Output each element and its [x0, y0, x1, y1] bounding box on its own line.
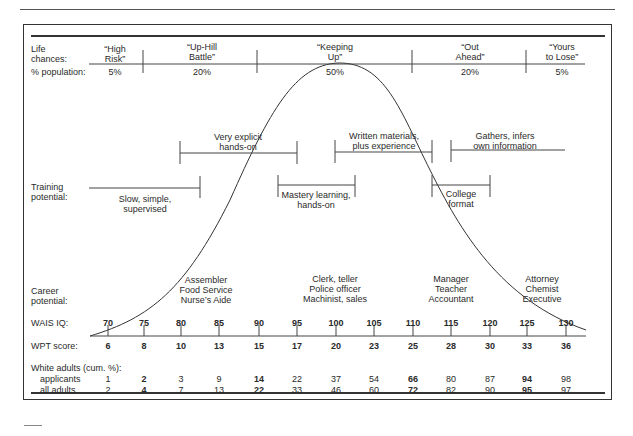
- applicants-value: 98: [561, 374, 571, 384]
- training-gathers-infers: Gathers, infers: [475, 131, 534, 141]
- training-college: College: [446, 189, 477, 199]
- wais-iq-value: 125: [519, 318, 534, 328]
- career-group-2-b: Police officer: [309, 284, 360, 294]
- training-slow-simple-2: supervised: [123, 204, 167, 214]
- applicants-value: 22: [292, 374, 302, 384]
- life-group-yours-to-lose: “Yours: [549, 42, 575, 52]
- wais-iq-value: 130: [558, 318, 573, 328]
- wpt-score-value: 25: [408, 341, 418, 351]
- all-adults-value: 60: [369, 385, 379, 395]
- wpt-score-value: 17: [292, 341, 302, 351]
- wais-iq-value: 110: [406, 318, 421, 328]
- all-adults-label: all adults: [40, 385, 76, 395]
- applicants-value: 37: [331, 374, 341, 384]
- career-group-4-b: Chemist: [525, 284, 558, 294]
- wpt-score-value: 23: [369, 341, 379, 351]
- life-group-out-ahead: “Out: [461, 42, 479, 52]
- career-group-4: Attorney: [525, 274, 559, 284]
- all-adults-value: 82: [446, 385, 456, 395]
- wpt-score-value: 28: [446, 341, 456, 351]
- training-gathers-infers-2: own information: [473, 141, 537, 151]
- life-group-yours-to-lose-2: to Lose”: [546, 52, 579, 62]
- wais-iq-value: 95: [292, 318, 302, 328]
- wais-iq-value: 85: [214, 318, 224, 328]
- training-mastery: Mastery learning,: [281, 190, 350, 200]
- life-group-keeping-up-2: Up”: [328, 52, 343, 62]
- life-group-uphill-2: Battle”: [189, 52, 215, 62]
- all-adults-value: 2: [105, 385, 110, 395]
- wpt-score-value: 20: [331, 341, 341, 351]
- career-group-1-c: Nurse’s Aide: [181, 295, 231, 305]
- career-group-3-c: Accountant: [428, 294, 473, 304]
- training-very-explicit-2: hands-on: [219, 142, 257, 152]
- applicants-value: 2: [141, 374, 146, 384]
- all-adults-value: 4: [141, 385, 146, 395]
- life-group-high-risk-2: Risk”: [105, 54, 126, 64]
- life-group-keeping-up: “Keeping: [317, 42, 353, 52]
- wpt-score-value: 6: [105, 341, 110, 351]
- wais-label: WAIS IQ:: [31, 318, 68, 328]
- career-group-2-c: Machinist, sales: [303, 294, 367, 304]
- applicants-value: 80: [446, 374, 456, 384]
- training-slow-simple: Slow, simple,: [119, 194, 172, 204]
- figure-caption-fragment: [24, 425, 42, 429]
- applicants-value: 9: [216, 374, 221, 384]
- all-adults-value: 22: [254, 385, 264, 395]
- wpt-score-value: 8: [141, 341, 146, 351]
- life-chances-label: Life: [31, 44, 46, 54]
- career-label-2: potential:: [31, 296, 68, 306]
- wpt-score-value: 13: [214, 341, 224, 351]
- all-adults-value: 7: [178, 385, 183, 395]
- life-group-yours-to-lose-pct: 5%: [555, 67, 568, 77]
- wais-iq-value: 80: [176, 318, 186, 328]
- wpt-score-value: 36: [561, 341, 571, 351]
- all-adults-value: 72: [408, 385, 418, 395]
- life-group-high-risk: “High: [104, 44, 126, 54]
- wpt-score-value: 10: [176, 341, 186, 351]
- applicants-value: 87: [485, 374, 495, 384]
- career-group-1-b: Food Service: [179, 285, 232, 295]
- applicants-value: 66: [408, 374, 418, 384]
- wpt-label: WPT score:: [31, 341, 78, 351]
- life-chances-label-2: chances:: [31, 54, 67, 64]
- life-group-uphill-pct: 20%: [193, 67, 211, 77]
- wpt-score-value: 15: [254, 341, 264, 351]
- career-group-4-c: Executive: [522, 294, 561, 304]
- applicants-value: 14: [254, 374, 264, 384]
- all-adults-value: 13: [214, 385, 224, 395]
- applicants-value: 1: [105, 374, 110, 384]
- life-group-out-ahead-2: Ahead”: [455, 52, 484, 62]
- wpt-score-value: 30: [485, 341, 495, 351]
- training-written-materials-2: plus experience: [352, 141, 415, 151]
- life-group-out-ahead-pct: 20%: [461, 67, 479, 77]
- applicants-value: 3: [178, 374, 183, 384]
- population-label: % population:: [31, 67, 86, 77]
- wais-iq-value: 70: [103, 318, 113, 328]
- all-adults-value: 33: [292, 385, 302, 395]
- life-group-high-risk-pct: 5%: [108, 67, 121, 77]
- career-group-3: Manager: [433, 274, 469, 284]
- wais-iq-value: 105: [366, 318, 381, 328]
- training-mastery-2: hands-on: [297, 200, 335, 210]
- wais-iq-value: 75: [139, 318, 149, 328]
- wpt-score-value: 33: [522, 341, 532, 351]
- life-group-keeping-up-pct: 50%: [326, 67, 344, 77]
- life-group-uphill: “Up-Hill: [187, 42, 217, 52]
- all-adults-value: 95: [522, 385, 532, 395]
- white-adults-title: White adults (cum. %):: [31, 363, 122, 373]
- training-very-explicit: Very explicit: [214, 132, 262, 142]
- all-adults-value: 90: [485, 385, 495, 395]
- all-adults-value: 97: [561, 385, 571, 395]
- training-college-2: format: [448, 199, 474, 209]
- training-label: Training: [31, 182, 63, 192]
- career-group-1: Assembler: [185, 275, 228, 285]
- career-label: Career: [31, 286, 59, 296]
- career-group-2: Clerk, teller: [312, 274, 358, 284]
- training-written-materials: Written materials,: [349, 131, 419, 141]
- applicants-label: applicants: [40, 374, 81, 384]
- wais-iq-value: 90: [254, 318, 264, 328]
- all-adults-value: 46: [331, 385, 341, 395]
- applicants-value: 54: [369, 374, 379, 384]
- wais-iq-value: 100: [328, 318, 343, 328]
- wais-iq-value: 120: [482, 318, 497, 328]
